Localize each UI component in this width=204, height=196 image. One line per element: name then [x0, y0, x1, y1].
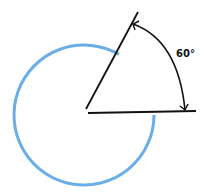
angle-label: 60°: [176, 48, 195, 59]
angle-arc: [133, 24, 185, 110]
angle-diagram: 60°: [0, 0, 204, 196]
horizontal-ray: [88, 111, 196, 113]
circle-arc: [14, 45, 154, 185]
slanted-ray: [86, 12, 138, 109]
